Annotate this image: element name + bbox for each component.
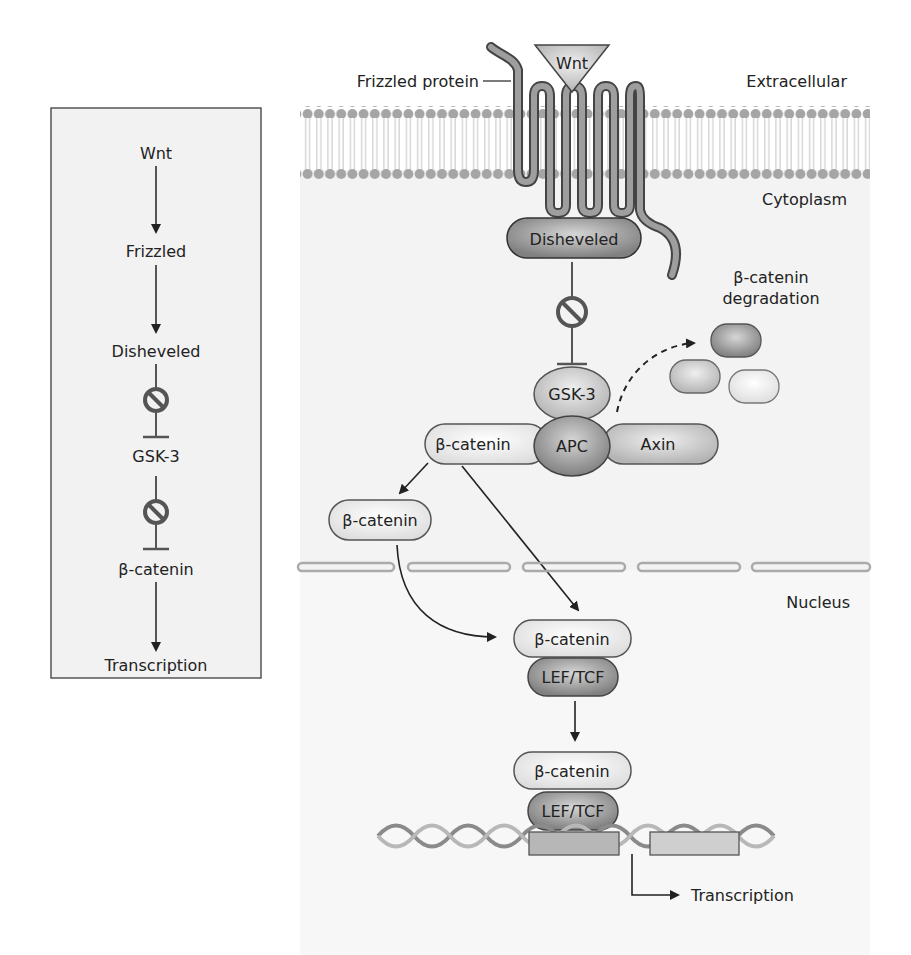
summary-step-wnt: Wnt bbox=[140, 144, 172, 163]
disheveled-label: Disheveled bbox=[530, 230, 619, 249]
nucleus-label: Nucleus bbox=[786, 593, 850, 612]
inhibition-icon bbox=[145, 389, 167, 411]
nuclear-lef-tcf-2-label: LEF/TCF bbox=[542, 802, 605, 821]
summary-step-transcription: Transcription bbox=[104, 656, 208, 675]
complex-beta-catenin-label: β-catenin bbox=[435, 435, 510, 454]
transcription-label: Transcription bbox=[690, 886, 794, 905]
frizzled-protein-label: Frizzled protein bbox=[357, 72, 479, 91]
promoter-region bbox=[529, 832, 619, 855]
inhibition-icon bbox=[558, 298, 586, 326]
degradation-label-line1: β-catenin bbox=[733, 268, 808, 287]
axin-label: Axin bbox=[641, 435, 676, 454]
target-gene bbox=[650, 832, 739, 855]
nuclear-beta-catenin-2-label: β-catenin bbox=[534, 762, 609, 781]
extracellular-label: Extracellular bbox=[746, 72, 847, 91]
summary-step-frizzled: Frizzled bbox=[126, 242, 186, 261]
cytoplasm-label: Cytoplasm bbox=[762, 190, 847, 209]
apc-label: APC bbox=[556, 437, 588, 456]
nuclear-lef-tcf-1-label: LEF/TCF bbox=[542, 668, 605, 687]
summary-box: Wnt Frizzled Disheveled GSK-3 β-catenin … bbox=[51, 108, 261, 678]
degradation-label-line2: degradation bbox=[722, 289, 819, 308]
gsk3-label: GSK-3 bbox=[548, 385, 595, 404]
summary-step-beta-catenin: β-catenin bbox=[118, 560, 193, 579]
summary-step-disheveled: Disheveled bbox=[112, 342, 201, 361]
wnt-pathway-diagram: Wnt Frizzled Disheveled GSK-3 β-catenin … bbox=[0, 0, 911, 955]
summary-step-gsk3: GSK-3 bbox=[132, 447, 179, 466]
free-beta-catenin: β-catenin bbox=[329, 500, 431, 540]
disheveled-protein: Disheveled bbox=[507, 218, 641, 258]
inhibition-icon bbox=[145, 501, 167, 523]
free-beta-catenin-label: β-catenin bbox=[342, 511, 417, 530]
wnt-label: Wnt bbox=[556, 54, 588, 73]
nuclear-beta-catenin-1-label: β-catenin bbox=[534, 630, 609, 649]
